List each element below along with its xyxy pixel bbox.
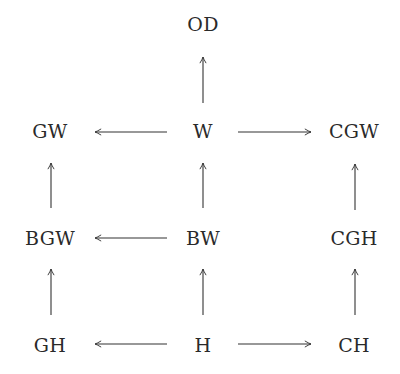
node-cgw: CGW [329, 120, 379, 142]
node-bw: BW [186, 227, 220, 249]
node-bgw: BGW [25, 227, 75, 249]
node-gh: GH [34, 334, 66, 356]
node-cgh: CGH [330, 227, 377, 249]
node-h: H [195, 334, 212, 356]
diagram-edges [0, 0, 400, 374]
node-gw: GW [32, 120, 67, 142]
node-ch: CH [338, 334, 370, 356]
node-od: OD [187, 13, 218, 35]
node-w: W [193, 120, 213, 142]
